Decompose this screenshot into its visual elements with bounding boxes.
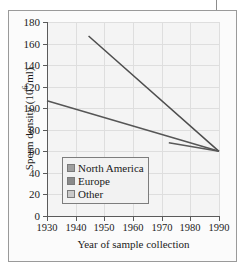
legend-swatch-icon: [67, 164, 75, 172]
legend-item: North America: [67, 161, 144, 174]
y-axis-title-exponent: 6: [21, 86, 30, 90]
legend-swatch-icon: [67, 177, 75, 185]
x-tick-mark: [104, 217, 105, 221]
y-tick-label: 180: [0, 17, 40, 28]
legend-label: Other: [78, 188, 103, 200]
chart-legend: North AmericaEuropeOther: [62, 157, 149, 204]
x-axis-title: Year of sample collection: [47, 238, 220, 250]
legend-label: Europe: [78, 175, 110, 187]
gridline-vertical: [190, 22, 191, 216]
y-axis-title-main: Sperm density (10: [23, 90, 35, 171]
x-tick-mark: [76, 217, 77, 221]
legend-swatch-icon: [67, 190, 75, 198]
x-tick-label: 1990: [198, 222, 240, 233]
legend-item: Europe: [67, 174, 144, 187]
gridline-vertical: [219, 22, 220, 216]
y-axis-title-tail: /ml): [23, 67, 35, 85]
x-tick-mark: [162, 217, 163, 221]
x-tick-mark: [219, 217, 220, 221]
legend-label: North America: [78, 162, 144, 174]
y-axis-line: [47, 22, 48, 217]
y-tick-label: 0: [0, 211, 40, 222]
gridline-vertical: [162, 22, 163, 216]
x-tick-mark: [190, 217, 191, 221]
x-axis-line: [47, 216, 220, 217]
x-tick-mark: [47, 217, 48, 221]
x-tick-mark: [133, 217, 134, 221]
legend-item: Other: [67, 187, 144, 200]
y-axis-title: Sperm density (106/ml): [21, 29, 35, 209]
